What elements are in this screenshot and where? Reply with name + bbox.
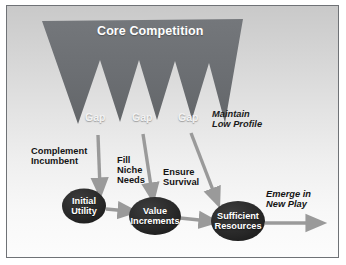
gap-label-2: Gap: [132, 112, 152, 123]
diagram-text-layer: Core Competition Gap Gap Gap Maintain Lo…: [0, 0, 346, 265]
gap-label-1: Gap: [85, 112, 105, 123]
annotation-emerge-in-new-play: Emerge in New Play: [266, 190, 311, 210]
annotation-complement-incumbent: Complement Incumbent: [31, 147, 87, 167]
diagram-figure: Core Competition Gap Gap Gap Maintain Lo…: [0, 0, 346, 265]
node-label-value-increments: Value Increments: [130, 206, 179, 227]
node-label-sufficient-resources: Sufficient Resources: [215, 211, 262, 232]
node-label-initial-utility: Initial Utility: [71, 196, 97, 217]
maintain-low-profile-label: Maintain Low Profile: [212, 110, 262, 130]
annotation-ensure-survival: Ensure Survival: [163, 168, 199, 188]
core-competition-title: Core Competition: [97, 25, 203, 38]
gap-label-3: Gap: [178, 112, 198, 123]
annotation-fill-niche-needs: Fill Niche Needs: [117, 156, 145, 186]
